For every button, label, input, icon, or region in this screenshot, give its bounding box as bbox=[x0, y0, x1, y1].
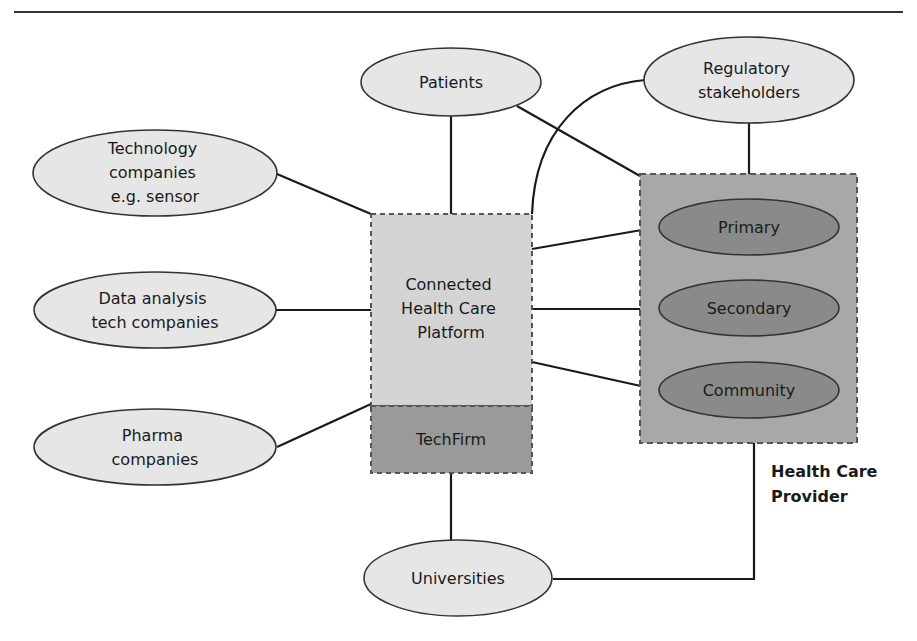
regulatory-node bbox=[644, 37, 854, 123]
edge-patients-provider bbox=[517, 106, 640, 176]
data-analysis-node bbox=[34, 272, 276, 348]
primary-label: Primary bbox=[718, 218, 780, 237]
secondary-label: Secondary bbox=[707, 299, 792, 318]
technology-label: Technology companies e.g. sensor bbox=[107, 139, 203, 206]
universities-label: Universities bbox=[411, 569, 505, 588]
patients-label: Patients bbox=[419, 73, 483, 92]
pharma-node bbox=[34, 409, 276, 485]
techfirm-label: TechFirm bbox=[415, 430, 486, 449]
stakeholder-diagram: Patients Regulatory stakeholders Technol… bbox=[0, 0, 917, 641]
community-label: Community bbox=[703, 381, 796, 400]
edge-universities-provider bbox=[553, 443, 754, 579]
edge-technology-platform bbox=[277, 174, 371, 214]
edge-pharma-platform bbox=[277, 404, 371, 447]
provider-label: Health Care Provider bbox=[771, 462, 883, 506]
